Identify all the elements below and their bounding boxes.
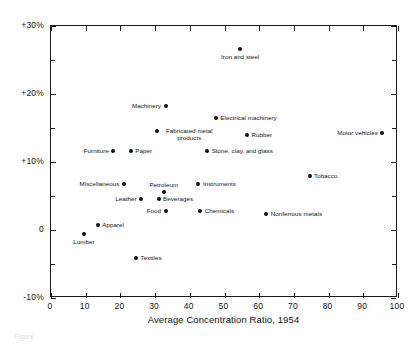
x-axis-tick-top — [398, 26, 399, 31]
data-point — [238, 47, 242, 51]
x-axis-tick-labels: 0102030405060708090100 — [50, 301, 397, 313]
y-axis-minor-tick — [51, 60, 55, 61]
y-axis-minor-tick-right — [392, 264, 396, 265]
data-point — [96, 223, 100, 227]
plot-area: Iron and steelMachineryElectrical machin… — [50, 25, 397, 297]
y-axis-minor-tick-right — [392, 128, 396, 129]
figure-caption-clipped: Figure — [14, 333, 34, 343]
y-axis-tick-right — [391, 26, 396, 27]
data-point-label: Rubber — [252, 132, 273, 139]
data-point-label: Leather — [115, 195, 136, 202]
x-axis-tick-top — [86, 26, 87, 31]
data-point — [198, 209, 202, 213]
x-axis-tick — [329, 293, 330, 298]
x-axis-tick — [86, 293, 87, 298]
data-point-label: Beverages — [163, 195, 193, 202]
x-tick-label: 10 — [80, 301, 90, 311]
data-point — [157, 197, 161, 201]
x-tick-label: 50 — [219, 301, 229, 311]
data-point-label: Apparel — [102, 222, 124, 229]
y-tick-label: +20% — [21, 88, 44, 98]
data-point — [134, 256, 138, 260]
data-point-label: Stone, clay, and glass — [212, 147, 273, 154]
data-point-label: Lumber — [73, 238, 94, 245]
data-point — [308, 174, 312, 178]
data-point — [155, 129, 159, 133]
data-point — [196, 182, 200, 186]
scatter-plot-figure: -10%0+10%+20%+30% Iron and steelMachiner… — [0, 0, 415, 344]
y-tick-label: +30% — [21, 20, 44, 30]
x-axis-tick — [398, 293, 399, 298]
x-axis-tick-top — [225, 26, 226, 31]
x-axis-tick-top — [120, 26, 121, 31]
y-axis-tick — [51, 162, 56, 163]
x-tick-label: 30 — [149, 301, 159, 311]
x-tick-label: 70 — [288, 301, 298, 311]
data-point-label: Iron and steel — [221, 53, 259, 60]
data-point-label: Chemicals — [205, 207, 234, 214]
y-axis-tick-right — [391, 298, 396, 299]
data-point — [164, 104, 168, 108]
data-point-label: Tobacco — [314, 172, 337, 179]
data-point — [205, 149, 209, 153]
data-point-label: Nonferrous metals — [271, 211, 322, 218]
data-point — [264, 212, 268, 216]
x-axis-tick — [225, 293, 226, 298]
data-point-label: Miscellaneous — [80, 180, 120, 187]
y-axis-minor-tick — [51, 196, 55, 197]
x-tick-label: 0 — [48, 301, 53, 311]
data-point — [111, 149, 115, 153]
data-point-label: Paper — [135, 147, 152, 154]
x-axis-tick — [120, 293, 121, 298]
data-point — [380, 131, 384, 135]
data-point-label: Textiles — [141, 254, 162, 261]
x-axis-title: Average Concentration Ratio, 1954 — [50, 314, 397, 325]
y-tick-label: 0 — [39, 224, 44, 234]
data-point — [129, 149, 133, 153]
data-point — [164, 209, 168, 213]
x-axis-tick-top — [329, 26, 330, 31]
y-axis-minor-tick — [51, 264, 55, 265]
data-point — [162, 190, 166, 194]
x-axis-tick-top — [190, 26, 191, 31]
x-axis-tick — [259, 293, 260, 298]
x-tick-label: 90 — [357, 301, 367, 311]
x-tick-label: 80 — [323, 301, 333, 311]
x-axis-tick-top — [363, 26, 364, 31]
y-axis-tick — [51, 298, 56, 299]
x-axis-tick-top — [259, 26, 260, 31]
data-point — [245, 133, 249, 137]
x-axis-tick-top — [51, 26, 52, 31]
y-tick-label: +10% — [21, 156, 44, 166]
data-point-label: Furniture — [84, 147, 109, 154]
data-point-label: Food — [147, 207, 161, 214]
data-point-label: Instruments — [203, 180, 236, 187]
x-tick-label: 20 — [114, 301, 124, 311]
y-axis-tick-right — [391, 94, 396, 95]
x-tick-label: 100 — [390, 301, 405, 311]
y-tick-label: -10% — [23, 292, 44, 302]
y-axis-tick-right — [391, 230, 396, 231]
x-axis-tick-top — [294, 26, 295, 31]
y-axis-tick — [51, 94, 56, 95]
y-axis-tick-labels: -10%0+10%+20%+30% — [0, 25, 44, 297]
x-axis-tick-top — [155, 26, 156, 31]
data-point — [122, 182, 126, 186]
y-axis-minor-tick — [51, 128, 55, 129]
data-point-label: Motor vehicles — [337, 129, 378, 136]
x-tick-label: 60 — [253, 301, 263, 311]
y-axis-tick — [51, 230, 56, 231]
y-axis-minor-tick-right — [392, 60, 396, 61]
x-axis-tick — [51, 293, 52, 298]
x-tick-label: 40 — [184, 301, 194, 311]
data-point-label: Fabricated metal products — [161, 127, 217, 142]
y-axis-tick-right — [391, 162, 396, 163]
data-point-label: Electrical machinery — [220, 114, 276, 121]
data-point — [82, 232, 86, 236]
x-axis-tick — [155, 293, 156, 298]
x-axis-tick — [363, 293, 364, 298]
x-axis-tick — [294, 293, 295, 298]
data-point-label: Petroleum — [149, 181, 178, 188]
data-point-label: Machinery — [132, 102, 161, 109]
y-axis-minor-tick-right — [392, 196, 396, 197]
